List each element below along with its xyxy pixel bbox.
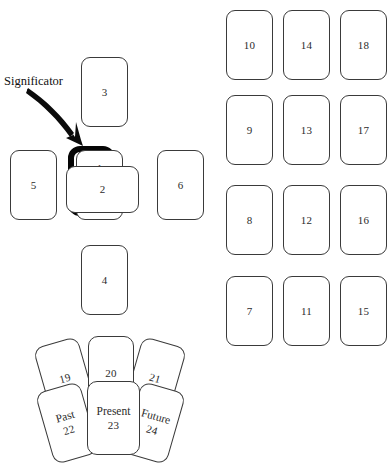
card-2[interactable]: 2 xyxy=(66,166,139,213)
card-number: 4 xyxy=(102,274,108,287)
card-4[interactable]: 4 xyxy=(81,245,128,315)
card-number: 16 xyxy=(358,214,369,227)
card-number: 8 xyxy=(247,214,253,227)
card-number: 3 xyxy=(102,86,108,99)
card-number: 17 xyxy=(358,124,369,137)
card-6[interactable]: 6 xyxy=(157,150,204,220)
grid-card-14[interactable]: 14 xyxy=(283,10,330,80)
grid-card-10[interactable]: 10 xyxy=(226,10,273,80)
grid-card-18[interactable]: 18 xyxy=(340,10,387,80)
card-number: 23 xyxy=(108,419,119,432)
card-number: 2 xyxy=(100,183,106,196)
card-number: 18 xyxy=(358,39,369,52)
card-number: 13 xyxy=(301,124,312,137)
card-number: 20 xyxy=(105,367,116,380)
grid-card-15[interactable]: 15 xyxy=(340,276,387,346)
arrow-down-right-icon xyxy=(26,86,92,152)
grid-card-7[interactable]: 7 xyxy=(226,276,273,346)
card-number: 10 xyxy=(244,39,255,52)
grid-card-8[interactable]: 8 xyxy=(226,185,273,255)
grid-card-16[interactable]: 16 xyxy=(340,185,387,255)
card-number: 14 xyxy=(301,39,312,52)
card-5[interactable]: 5 xyxy=(10,150,57,220)
grid-card-12[interactable]: 12 xyxy=(283,185,330,255)
card-number: 9 xyxy=(247,124,253,137)
card-number: 11 xyxy=(301,305,312,318)
card-number: 15 xyxy=(358,305,369,318)
tarot-spread-diagram: 3 1 2 5 6 4 Significator 10 14 18 9 13 xyxy=(0,0,390,475)
card-number: 7 xyxy=(247,305,253,318)
card-number: 24 xyxy=(145,422,159,437)
fan-card-present-23[interactable]: Present 23 xyxy=(87,381,140,455)
card-number: 5 xyxy=(31,179,37,192)
grid-card-17[interactable]: 17 xyxy=(340,95,387,165)
grid-card-11[interactable]: 11 xyxy=(283,276,330,346)
grid-card-9[interactable]: 9 xyxy=(226,95,273,165)
card-word: Present xyxy=(97,405,131,418)
grid-card-13[interactable]: 13 xyxy=(283,95,330,165)
card-number: 22 xyxy=(62,422,76,437)
card-number: 12 xyxy=(301,214,312,227)
card-number: 6 xyxy=(178,179,184,192)
